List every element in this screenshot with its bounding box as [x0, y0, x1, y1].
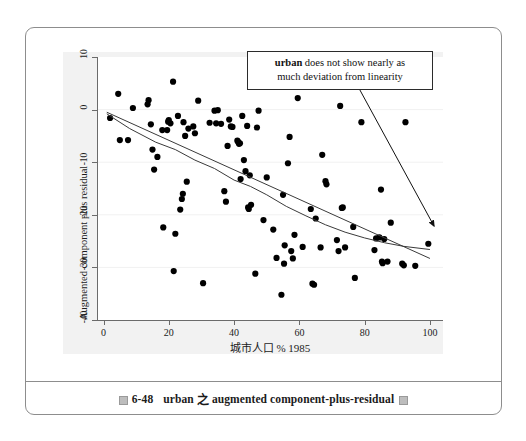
- scatter-point: [281, 261, 287, 267]
- caption-box-glyph-left: [119, 396, 128, 405]
- scatter-point: [335, 248, 341, 254]
- plot-panel: [97, 57, 443, 320]
- scatter-point: [195, 98, 201, 104]
- scatter-point: [323, 181, 329, 187]
- y-tick-mark: [92, 162, 97, 163]
- scatter-point: [270, 226, 276, 232]
- scatter-point: [425, 241, 431, 247]
- x-tick-mark: [169, 320, 170, 325]
- scatter-point: [200, 280, 206, 286]
- figure-divider: [25, 381, 502, 382]
- scatter-point: [254, 124, 260, 130]
- x-tick-label: 40: [214, 327, 254, 338]
- scatter-point: [130, 105, 136, 111]
- caption-main-text: augmented component-plus-residual: [212, 393, 394, 405]
- scatter-point: [223, 199, 229, 205]
- y-tick-mark: [92, 110, 97, 111]
- scatter-point: [319, 152, 325, 158]
- y-axis-title-wrap: Augmented component plus residual: [66, 57, 80, 320]
- scatter-point: [224, 143, 230, 149]
- scatter-point: [125, 137, 131, 143]
- scatter-point: [378, 186, 384, 192]
- scatter-point: [286, 134, 292, 140]
- annotation-line1-rest: does not show nearly as: [302, 57, 405, 68]
- scatter-point: [229, 124, 235, 130]
- scatter-point: [311, 282, 317, 288]
- scatter-point: [384, 259, 390, 265]
- scatter-point: [244, 123, 250, 129]
- scatter-point: [352, 275, 358, 281]
- annotation-bold-term: urban: [275, 57, 302, 68]
- scatter-point: [154, 154, 160, 160]
- scatter-point: [264, 174, 270, 180]
- scatter-point: [190, 123, 196, 129]
- scatter-point: [175, 113, 181, 119]
- scatter-point: [278, 292, 284, 298]
- scatter-point: [149, 146, 155, 152]
- scatter-point: [182, 133, 188, 139]
- scatter-point: [388, 220, 394, 226]
- scatter-point: [308, 206, 314, 212]
- scatter-point: [179, 196, 185, 202]
- scatter-point: [337, 103, 343, 109]
- x-tick-label: 100: [410, 327, 450, 338]
- x-tick-label: 0: [84, 327, 124, 338]
- scatter-point: [290, 255, 296, 261]
- caption-zhi-char: 之: [197, 390, 209, 408]
- x-tick-label: 60: [279, 327, 319, 338]
- scatter-point: [282, 242, 288, 248]
- scatter-point: [317, 244, 323, 250]
- scatter-point: [239, 113, 245, 119]
- y-axis-line: [97, 57, 98, 320]
- scatter-point: [300, 244, 306, 250]
- y-tick-mark: [92, 57, 97, 58]
- scatter-point: [160, 224, 166, 230]
- scatter-point: [334, 237, 340, 243]
- scatter-plot-svg: [97, 57, 443, 320]
- x-tick-mark: [234, 320, 235, 325]
- scatter-point: [192, 130, 198, 136]
- scatter-point: [171, 268, 177, 274]
- scatter-point: [145, 97, 151, 103]
- scatter-point: [255, 108, 261, 114]
- y-tick-mark: [92, 320, 97, 321]
- scatter-point: [221, 188, 227, 194]
- x-tick-label: 20: [149, 327, 189, 338]
- x-tick-mark: [104, 320, 105, 325]
- caption-subject: urban: [163, 393, 194, 405]
- scatter-point: [358, 119, 364, 125]
- scatter-point: [412, 263, 418, 269]
- scatter-point: [180, 119, 186, 125]
- scatter-point: [167, 120, 173, 126]
- scatter-point: [285, 160, 291, 166]
- scatter-point: [260, 217, 266, 223]
- figure-caption: 6-48 urban 之 augmented component-plus-re…: [25, 385, 502, 413]
- scatter-point: [148, 121, 154, 127]
- x-tick-mark: [430, 320, 431, 325]
- scatter-point: [273, 255, 279, 261]
- scatter-point: [402, 119, 408, 125]
- scatter-points: [107, 79, 431, 298]
- scatter-point: [170, 79, 176, 85]
- scatter-point: [252, 271, 258, 277]
- scatter-point: [401, 262, 407, 268]
- x-tick-mark: [365, 320, 366, 325]
- y-tick-label: 0: [79, 99, 89, 115]
- scatter-point: [164, 127, 170, 133]
- scatter-point: [226, 116, 232, 122]
- x-axis-line: [97, 320, 443, 321]
- caption-number: 6-48: [132, 393, 153, 405]
- scatter-point: [340, 204, 346, 210]
- scatter-point: [371, 247, 377, 253]
- scatter-point: [177, 206, 183, 212]
- scatter-point: [115, 91, 121, 97]
- y-axis-title: Augmented component plus residual: [78, 166, 89, 320]
- y-tick-mark: [92, 215, 97, 216]
- scatter-point: [248, 202, 254, 208]
- scatter-point: [184, 179, 190, 185]
- x-tick-label: 80: [345, 327, 385, 338]
- x-axis-title: 城市人口 % 1985: [97, 339, 443, 355]
- scatter-point: [241, 157, 247, 163]
- scatter-point: [207, 120, 213, 126]
- scatter-point: [117, 137, 123, 143]
